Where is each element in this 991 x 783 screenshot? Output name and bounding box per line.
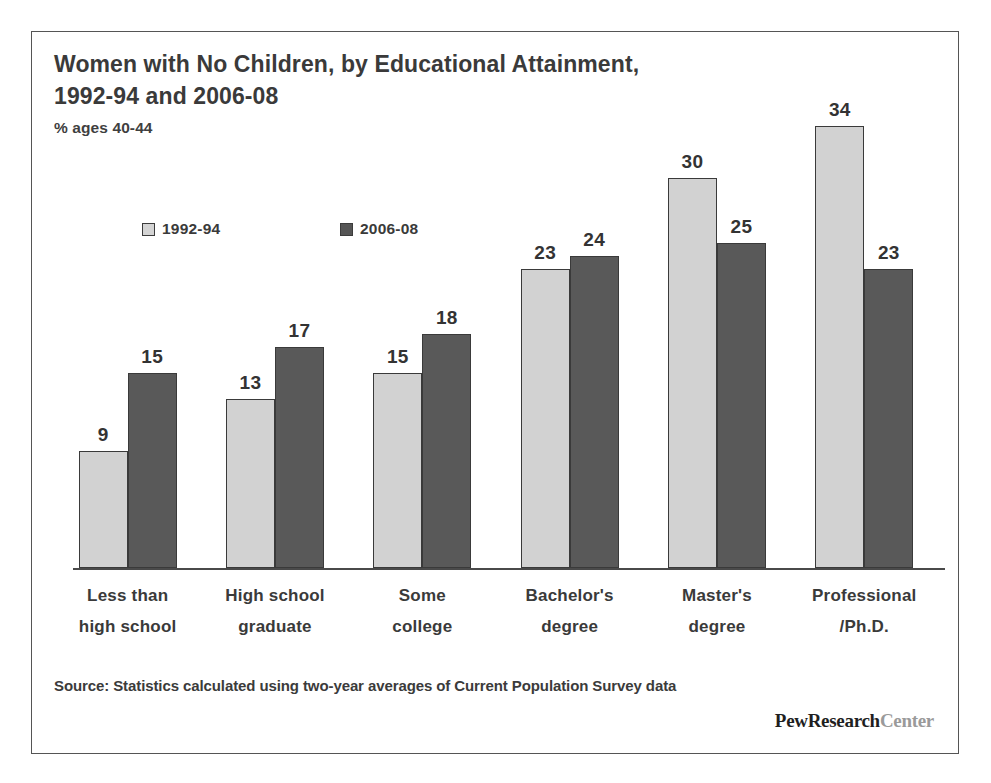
- bar-group: 3025: [643, 92, 790, 568]
- source-note: Source: Statistics calculated using two-…: [54, 677, 676, 694]
- bar-groups: 91513171518232430253423: [54, 92, 938, 568]
- x-axis-label: High school graduate: [201, 580, 348, 642]
- logo-main-text: PewResearch: [775, 710, 880, 731]
- bar-item[interactable]: 18: [422, 92, 471, 568]
- bar-item[interactable]: 23: [864, 92, 913, 568]
- bar[interactable]: [422, 334, 471, 568]
- bar-value-label: 9: [98, 425, 109, 444]
- bar-group: 915: [54, 92, 201, 568]
- x-axis-label: Master's degree: [643, 580, 790, 642]
- bar-item[interactable]: 25: [717, 92, 766, 568]
- x-axis-label: Some college: [349, 580, 496, 642]
- x-axis-labels: Less than high schoolHigh school graduat…: [54, 580, 938, 642]
- bar[interactable]: [521, 269, 570, 568]
- bar-value-label: 24: [583, 230, 605, 249]
- bar[interactable]: [226, 399, 275, 568]
- bar-item[interactable]: 15: [128, 92, 177, 568]
- bar-item[interactable]: 17: [275, 92, 324, 568]
- bar-value-label: 15: [387, 347, 409, 366]
- bar-item[interactable]: 9: [79, 92, 128, 568]
- plot-area: 91513171518232430253423: [54, 92, 938, 570]
- bar-group: 2324: [496, 92, 643, 568]
- bar-value-label: 23: [534, 243, 556, 262]
- bar-group: 3423: [791, 92, 938, 568]
- bar-value-label: 30: [682, 152, 704, 171]
- x-axis-label: Bachelor's degree: [496, 580, 643, 642]
- bar-value-label: 18: [436, 308, 458, 327]
- x-axis-label: Less than high school: [54, 580, 201, 642]
- x-axis-label: Professional /Ph.D.: [791, 580, 938, 642]
- bar-item[interactable]: 15: [373, 92, 422, 568]
- bar[interactable]: [864, 269, 913, 568]
- bar[interactable]: [815, 126, 864, 568]
- chart-frame: Women with No Children, by Educational A…: [31, 31, 959, 754]
- bar-value-label: 17: [289, 321, 311, 340]
- x-axis-line: [73, 568, 945, 570]
- bar[interactable]: [668, 178, 717, 568]
- bar[interactable]: [275, 347, 324, 568]
- bar-value-label: 23: [878, 243, 900, 262]
- bar[interactable]: [570, 256, 619, 568]
- bar-item[interactable]: 30: [668, 92, 717, 568]
- bar[interactable]: [717, 243, 766, 568]
- bar-value-label: 25: [731, 217, 753, 236]
- bar-value-label: 13: [240, 373, 262, 392]
- pew-research-center-logo: PewResearchCenter: [775, 710, 934, 732]
- bar-value-label: 15: [141, 347, 163, 366]
- bar-item[interactable]: 24: [570, 92, 619, 568]
- bar[interactable]: [79, 451, 128, 568]
- bar-value-label: 34: [829, 100, 851, 119]
- bar[interactable]: [128, 373, 177, 568]
- bar-item[interactable]: 34: [815, 92, 864, 568]
- bar-group: 1317: [201, 92, 348, 568]
- bar-item[interactable]: 23: [521, 92, 570, 568]
- bar-group: 1518: [349, 92, 496, 568]
- bar[interactable]: [373, 373, 422, 568]
- logo-sub-text: Center: [880, 710, 934, 731]
- bar-item[interactable]: 13: [226, 92, 275, 568]
